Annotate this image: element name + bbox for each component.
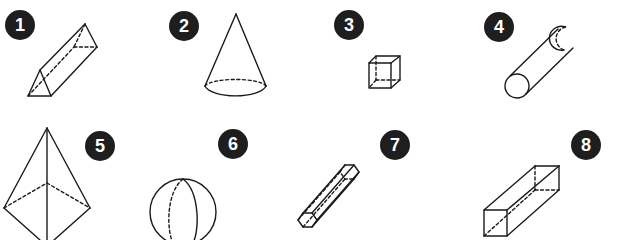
hexagonal-prism-icon [290,120,450,240]
cube-icon [320,0,480,110]
pyramid-icon [0,120,160,240]
cone-icon [160,0,320,110]
triangular-prism-icon [0,0,160,110]
sphere-icon [140,120,300,240]
rectangular-prism-icon [466,120,626,240]
cylinder-icon [480,0,626,110]
